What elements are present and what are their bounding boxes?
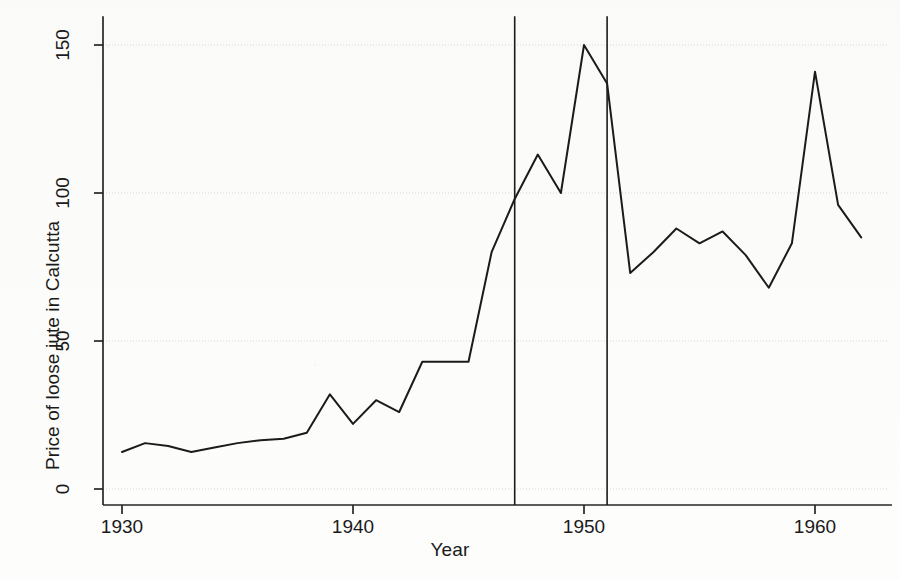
- y-tick-label: 0: [52, 462, 74, 516]
- x-tick-label: 1930: [96, 516, 148, 538]
- y-tick-label: 100: [52, 166, 74, 220]
- data-series-line: [122, 45, 861, 452]
- chart-figure: Price of loose jute in Calcutta Year 193…: [0, 0, 900, 579]
- vertical-reference-lines: [515, 16, 607, 505]
- x-tick-label: 1940: [327, 516, 379, 538]
- line-chart-plot: [0, 0, 900, 579]
- series-line-price-of-loose-jute: [122, 45, 861, 452]
- axis-ticks: [94, 45, 815, 514]
- x-tick-label: 1950: [558, 516, 610, 538]
- y-tick-label: 150: [52, 18, 74, 72]
- x-axis-title: Year: [0, 539, 900, 561]
- y-tick-label: 50: [52, 314, 74, 368]
- chart-axes: [103, 16, 892, 505]
- gridlines: [103, 45, 888, 489]
- x-tick-label: 1960: [789, 516, 841, 538]
